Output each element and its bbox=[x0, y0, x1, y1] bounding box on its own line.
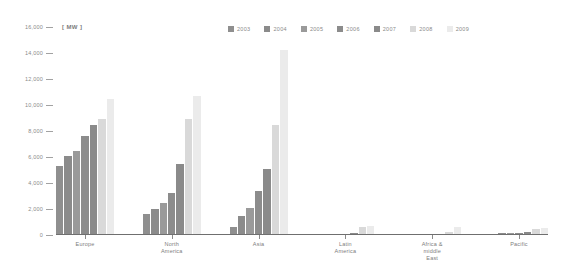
y-axis-tick-label: 10,000 bbox=[25, 102, 43, 108]
bar[interactable] bbox=[255, 191, 262, 235]
bar[interactable] bbox=[176, 164, 183, 235]
bar[interactable] bbox=[151, 209, 158, 235]
y-axis-tick: 0 bbox=[40, 232, 56, 238]
y-axis-tick-mark bbox=[46, 27, 53, 28]
x-axis-category-label: North America bbox=[157, 241, 186, 255]
bar-group-bars bbox=[403, 27, 461, 235]
x-axis-category-label: Latin America bbox=[331, 241, 360, 255]
bar-group: Africa & middle East bbox=[403, 27, 461, 235]
y-axis-tick: 6,000 bbox=[28, 154, 56, 160]
x-axis-tick-mark bbox=[85, 235, 86, 239]
y-axis-tick-label: 4,000 bbox=[28, 180, 43, 186]
y-axis-tick: 10,000 bbox=[25, 102, 56, 108]
y-axis-tick-label: 12,000 bbox=[25, 76, 43, 82]
bar[interactable] bbox=[81, 136, 88, 235]
bar[interactable] bbox=[90, 125, 97, 236]
bar[interactable] bbox=[280, 50, 287, 235]
y-axis-tick-mark bbox=[46, 53, 53, 54]
bar-group-bars bbox=[316, 27, 374, 235]
y-axis-tick-label: 14,000 bbox=[25, 50, 43, 56]
y-axis-tick-label: 16,000 bbox=[25, 24, 43, 30]
bar[interactable] bbox=[238, 216, 245, 235]
bar-group-bars bbox=[230, 27, 288, 235]
x-axis-category-label: Pacific bbox=[510, 241, 528, 248]
bar-group-bars bbox=[56, 27, 114, 235]
bar[interactable] bbox=[263, 169, 270, 235]
x-axis-line bbox=[56, 234, 548, 235]
bar-group: Asia bbox=[230, 27, 288, 235]
plot-area: 16,00014,00012,00010,0008,0006,0004,0002… bbox=[56, 27, 548, 235]
y-axis-tick-label: 2,000 bbox=[28, 206, 43, 212]
y-axis-tick: 8,000 bbox=[28, 128, 56, 134]
x-axis-category-label: Asia bbox=[253, 241, 265, 248]
x-axis-category-label: Europe bbox=[76, 241, 95, 248]
bar-group: Pacific bbox=[490, 27, 548, 235]
x-axis-category-label: Africa & middle East bbox=[418, 241, 447, 262]
chart-root: [ MW ] 2003200420052006200720082009 16,0… bbox=[0, 0, 562, 276]
y-axis-tick-mark bbox=[46, 131, 53, 132]
bar[interactable] bbox=[98, 119, 105, 235]
bar[interactable] bbox=[64, 156, 71, 235]
x-axis-tick-mark bbox=[519, 235, 520, 239]
bar[interactable] bbox=[143, 214, 150, 235]
bar[interactable] bbox=[168, 193, 175, 235]
y-axis-tick: 14,000 bbox=[25, 50, 56, 56]
y-axis-tick-mark bbox=[46, 235, 53, 236]
bar[interactable] bbox=[272, 125, 279, 235]
bar[interactable] bbox=[246, 208, 253, 235]
bar-group: Europe bbox=[56, 27, 114, 235]
x-axis-tick-mark bbox=[432, 235, 433, 239]
bar[interactable] bbox=[160, 203, 167, 236]
y-axis-tick-mark bbox=[46, 105, 53, 106]
bar[interactable] bbox=[107, 99, 114, 236]
y-axis-tick-mark bbox=[46, 79, 53, 80]
y-axis-tick: 12,000 bbox=[25, 76, 56, 82]
bar[interactable] bbox=[185, 119, 192, 235]
bar[interactable] bbox=[56, 166, 63, 235]
y-axis-tick-mark bbox=[46, 157, 53, 158]
y-axis-tick-label: 0 bbox=[40, 232, 43, 238]
x-axis-tick-mark bbox=[172, 235, 173, 239]
bar-group: North America bbox=[143, 27, 201, 235]
bar-group: Latin America bbox=[316, 27, 374, 235]
y-axis-tick-label: 8,000 bbox=[28, 128, 43, 134]
bar-group-bars bbox=[143, 27, 201, 235]
y-axis-tick: 4,000 bbox=[28, 180, 56, 186]
y-axis-tick-mark bbox=[46, 209, 53, 210]
x-axis-tick-mark bbox=[345, 235, 346, 239]
bar[interactable] bbox=[193, 96, 200, 235]
y-axis-tick: 16,000 bbox=[25, 24, 56, 30]
y-axis-tick-label: 6,000 bbox=[28, 154, 43, 160]
y-axis-tick-mark bbox=[46, 183, 53, 184]
bar-group-bars bbox=[490, 27, 548, 235]
bar[interactable] bbox=[73, 151, 80, 235]
y-axis-tick: 2,000 bbox=[28, 206, 56, 212]
x-axis-tick-mark bbox=[259, 235, 260, 239]
